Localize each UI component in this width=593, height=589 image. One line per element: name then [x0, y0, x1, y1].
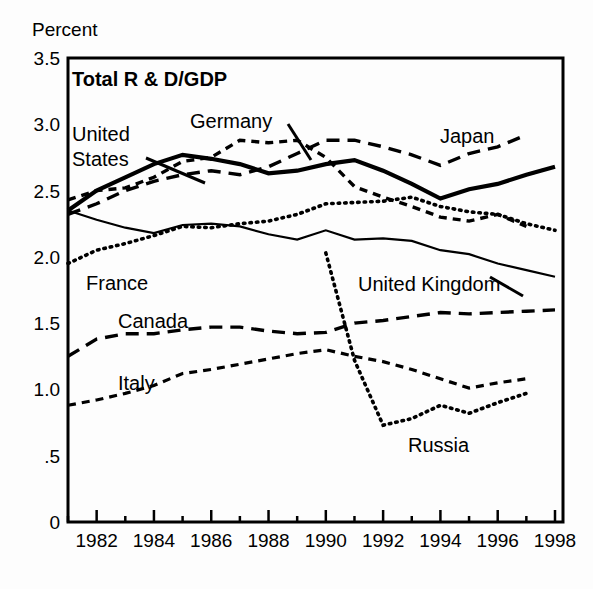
series-label-russia: Russia	[408, 434, 470, 456]
x-tick-label: 1996	[477, 530, 519, 551]
series-label-united-kingdom: United Kingdom	[358, 273, 500, 295]
x-tick-label: 1990	[305, 530, 347, 551]
y-tick-label: 1.0	[34, 379, 60, 400]
x-tick-label: 1982	[76, 530, 118, 551]
y-tick-label: 3.0	[34, 114, 60, 135]
x-axis-tick-group: 198219841986198819901992199419961998	[68, 510, 576, 551]
series-label-japan: Japan	[440, 125, 495, 147]
y-tick-label: .5	[44, 446, 60, 467]
chart-title: Total R & D/GDP	[72, 68, 227, 90]
y-axis-caption: Percent	[32, 19, 98, 40]
x-tick-label: 1984	[133, 530, 176, 551]
annotation-group: Total R & D/GDPUnitedStatesGermanyJapanF…	[72, 68, 500, 456]
x-tick-label: 1994	[419, 530, 462, 551]
series-label-united: United	[72, 123, 130, 145]
chart-container: Percent 0.51.01.52.02.53.03.5 1982198419…	[0, 0, 593, 589]
y-axis-tick-group: 0.51.01.52.02.53.03.5	[34, 48, 68, 533]
y-tick-label: 0	[49, 512, 60, 533]
x-tick-label: 1998	[534, 530, 576, 551]
y-tick-label: 2.5	[34, 181, 60, 202]
rd-gdp-line-chart: Percent 0.51.01.52.02.53.03.5 1982198419…	[0, 0, 593, 589]
united-states-leader	[146, 158, 205, 183]
series-label-italy: Italy	[118, 372, 155, 394]
x-tick-label: 1988	[247, 530, 289, 551]
series-line-united-kingdom	[68, 211, 555, 277]
y-tick-label: 1.5	[34, 313, 60, 334]
x-tick-label: 1986	[190, 530, 232, 551]
series-label-france: France	[86, 272, 148, 294]
series-label-germany: Germany	[190, 110, 272, 132]
series-label-canada: Canada	[118, 310, 189, 332]
y-tick-label: 2.0	[34, 247, 60, 268]
series-label-states: States	[72, 148, 129, 170]
y-tick-label: 3.5	[34, 48, 60, 69]
x-tick-label: 1992	[362, 530, 404, 551]
